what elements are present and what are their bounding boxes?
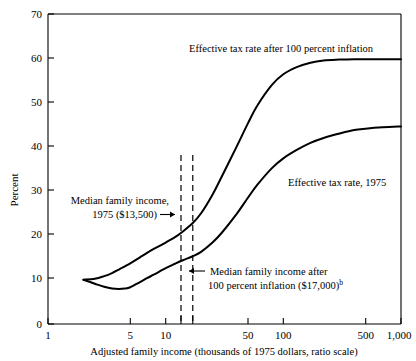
y-tick-labels: 70 60 50 40 30 20 10 0 (31, 8, 43, 330)
x-tick-label: 1 (45, 329, 51, 341)
y-tick-label: 70 (31, 8, 43, 20)
x-tick-label: 500 (357, 329, 374, 341)
curve-label-1975: Effective tax rate, 1975 (288, 177, 386, 188)
median-income-after-inflation-arrow-icon (189, 268, 205, 274)
median-income-1975-arrow-icon (160, 212, 175, 218)
x-tick-label: 50 (243, 329, 255, 341)
x-tick-label: 10 (160, 329, 172, 341)
y-tick-label: 0 (37, 318, 43, 330)
chart-svg: 70 60 50 40 30 20 10 0 Percent 1 5 10 50 (0, 0, 416, 361)
y-tick-label: 10 (31, 272, 43, 284)
y-tick-label: 50 (31, 96, 43, 108)
median-income-after-inflation-line2: 100 percent inflation ($17,000)b (208, 278, 343, 292)
x-ticks (48, 318, 401, 324)
x-axis-title: Adjusted family income (thousands of 197… (90, 346, 358, 358)
y-tick-label: 60 (31, 52, 43, 64)
curve-label-inflation: Effective tax rate after 100 percent inf… (189, 43, 374, 54)
median-income-1975-line1: Median family income, (71, 195, 169, 206)
x-tick-label: 1,000 (387, 329, 412, 341)
curve-effective-tax-rate-after-inflation (83, 59, 401, 280)
x-tick-labels: 1 5 10 50 100 500 1,000 (45, 329, 412, 341)
y-tick-label: 20 (31, 228, 43, 240)
y-ticks (48, 14, 54, 324)
median-income-1975-line2: 1975 ($13,500) (92, 209, 157, 221)
y-tick-label: 40 (31, 140, 43, 152)
median-income-markers (181, 155, 193, 324)
x-tick-label: 100 (275, 329, 292, 341)
x-tick-label: 5 (128, 329, 134, 341)
y-tick-label: 30 (31, 184, 43, 196)
median-income-after-inflation-line1: Median family income after (210, 266, 328, 277)
chart-figure: 70 60 50 40 30 20 10 0 Percent 1 5 10 50 (0, 0, 416, 361)
y-axis-title: Percent (8, 174, 20, 207)
